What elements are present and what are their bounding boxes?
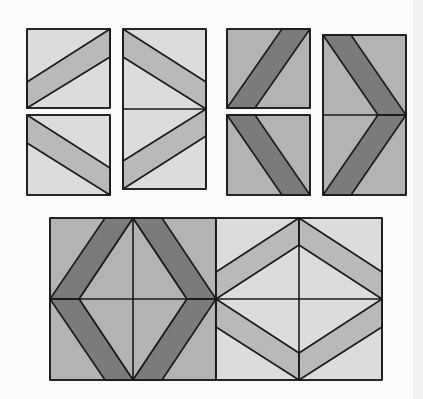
light-chevron (123, 29, 206, 189)
light-unit-a (27, 29, 110, 108)
light-unit-b (27, 115, 110, 195)
dark-diamond-block (50, 218, 216, 380)
dark-unit-a (227, 29, 310, 108)
dark-chevron (323, 35, 406, 195)
dark-unit-b (227, 115, 310, 195)
quilt-diagram (0, 0, 423, 399)
light-diamond-block (216, 218, 382, 380)
